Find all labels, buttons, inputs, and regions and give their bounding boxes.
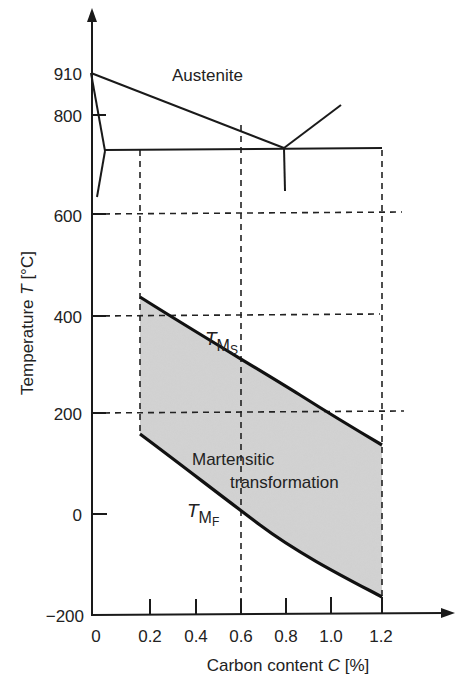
x-tick-0.2: 0.2	[138, 627, 162, 646]
martensitic-region	[140, 297, 382, 597]
x-axis	[92, 613, 446, 615]
y-tick-910: 910	[54, 65, 82, 84]
eutectoid-vertical	[284, 148, 285, 191]
x-tick-0.6: 0.6	[229, 627, 253, 646]
y-tick-800: 800	[54, 107, 82, 126]
austenite-label: Austenite	[172, 66, 243, 85]
hline-200	[93, 411, 404, 413]
hline-600	[93, 212, 402, 214]
alpha-solvus-line	[97, 151, 105, 197]
phase-boundaries	[91, 73, 382, 197]
x-tick-labels: 0 0.2 0.4 0.6 0.8 1.0 1.2	[91, 627, 393, 646]
x-ticks	[150, 597, 382, 614]
y-tick-labels: 910 800 600 400 200 0 −200	[46, 65, 84, 626]
a1-eutectoid-line	[105, 148, 382, 150]
y-tick-200: 200	[54, 405, 82, 424]
y-axis-arrow-icon	[87, 8, 97, 22]
x-tick-1.0: 1.0	[319, 627, 343, 646]
x-tick-1.2: 1.2	[369, 627, 393, 646]
x-tick-0.8: 0.8	[274, 627, 298, 646]
martensitic-label: Martensitic	[192, 450, 275, 469]
x-axis-arrow-icon	[441, 608, 455, 618]
acm-line	[284, 105, 341, 148]
y-tick-0: 0	[73, 506, 82, 525]
transformation-label: transformation	[230, 473, 339, 492]
x-axis-title: Carbon content C [%]	[207, 656, 370, 675]
y-tick-neg200: −200	[46, 607, 84, 626]
hline-400	[93, 314, 380, 316]
y-tick-600: 600	[54, 207, 82, 226]
x-tick-0: 0	[91, 627, 100, 646]
y-ticks	[92, 115, 107, 514]
martensite-diagram: 910 800 600 400 200 0 −200 0 0.2 0.4 0.6…	[0, 0, 468, 694]
alpha-gamma-line	[91, 73, 105, 151]
x-tick-0.4: 0.4	[184, 627, 208, 646]
tmf-label: TMF	[187, 500, 219, 529]
y-tick-400: 400	[54, 308, 82, 327]
y-axis-title: Temperature T [°C]	[18, 251, 37, 395]
